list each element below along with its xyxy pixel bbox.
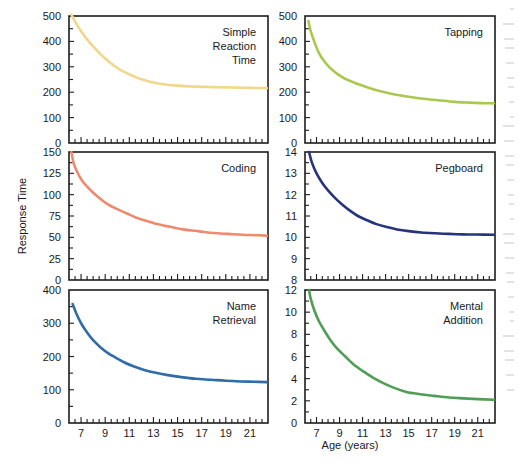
panel-title: Pegboard xyxy=(435,162,483,174)
panel-title: Retrieval xyxy=(213,314,256,326)
y-tick-label: 300 xyxy=(43,61,61,73)
chart-panel-2: 0100200300400500Tapping xyxy=(279,10,495,149)
panel-title: Time xyxy=(232,54,256,66)
panel-title: Name xyxy=(227,300,256,312)
y-tick-label: 500 xyxy=(279,10,297,22)
y-tick-label: 200 xyxy=(279,86,297,98)
chart-panel-6: 02468101279111315171921MentalAddition xyxy=(285,284,495,439)
x-tick-label: 17 xyxy=(426,427,438,439)
y-tick-label: 200 xyxy=(43,351,61,363)
y-tick-label: 500 xyxy=(43,10,61,22)
x-tick-label: 19 xyxy=(220,427,232,439)
y-tick-label: 10 xyxy=(285,306,297,318)
panel-title: Tapping xyxy=(444,26,483,38)
y-tick-label: 14 xyxy=(285,146,297,158)
x-axis-title: Age (years) xyxy=(322,439,379,451)
y-tick-label: 300 xyxy=(43,317,61,329)
x-tick-label: 11 xyxy=(124,427,135,439)
chart-panel-5: 010020030040079111315171921NameRetrieval xyxy=(43,284,268,439)
y-tick-label: 12 xyxy=(285,189,297,201)
panel-title: Simple xyxy=(222,26,256,38)
chart-panel-4: 891011121314Pegboard xyxy=(285,146,495,286)
y-tick-label: 0 xyxy=(291,417,297,429)
y-tick-label: 25 xyxy=(49,253,61,265)
multi-panel-line-chart: 0100200300400500SimpleReactionTime010020… xyxy=(0,0,518,463)
y-tick-label: 100 xyxy=(43,189,61,201)
x-tick-label: 13 xyxy=(379,427,391,439)
x-tick-label: 11 xyxy=(357,427,368,439)
y-tick-label: 125 xyxy=(43,167,61,179)
y-tick-label: 150 xyxy=(43,146,61,158)
y-tick-label: 11 xyxy=(286,210,297,222)
x-tick-label: 19 xyxy=(449,427,461,439)
panel-title: Mental xyxy=(450,300,483,312)
x-tick-label: 15 xyxy=(403,427,415,439)
y-tick-label: 100 xyxy=(43,112,61,124)
x-tick-label: 21 xyxy=(244,427,256,439)
panel-title: Addition xyxy=(443,314,483,326)
figure-panel-grid: 0100200300400500SimpleReactionTime010020… xyxy=(0,0,518,463)
x-tick-label: 21 xyxy=(472,427,484,439)
chart-panel-3: 0255075100125150Coding xyxy=(43,146,268,286)
y-tick-label: 12 xyxy=(285,284,297,296)
y-tick-label: 50 xyxy=(49,231,61,243)
x-tick-label: 13 xyxy=(147,427,159,439)
y-tick-label: 8 xyxy=(291,328,297,340)
y-tick-label: 400 xyxy=(43,284,61,296)
y-tick-label: 100 xyxy=(279,112,297,124)
x-tick-label: 17 xyxy=(196,427,208,439)
y-tick-label: 10 xyxy=(285,231,297,243)
x-tick-label: 15 xyxy=(171,427,183,439)
y-tick-label: 13 xyxy=(285,167,297,179)
y-tick-label: 400 xyxy=(279,35,297,47)
y-tick-label: 2 xyxy=(291,395,297,407)
y-tick-label: 200 xyxy=(43,86,61,98)
page-edge-scan-artifact xyxy=(496,0,518,463)
x-tick-label: 9 xyxy=(336,427,342,439)
y-tick-label: 400 xyxy=(43,35,61,47)
x-tick-label: 7 xyxy=(313,427,319,439)
chart-panel-1: 0100200300400500SimpleReactionTime xyxy=(43,10,268,149)
y-tick-label: 0 xyxy=(55,417,61,429)
y-tick-label: 75 xyxy=(49,210,61,222)
x-tick-label: 7 xyxy=(78,427,84,439)
panel-title: Reaction xyxy=(213,40,256,52)
y-tick-label: 9 xyxy=(291,253,297,265)
y-tick-label: 300 xyxy=(279,61,297,73)
y-axis-title: Response Time xyxy=(16,178,28,254)
y-tick-label: 100 xyxy=(43,384,61,396)
y-tick-label: 4 xyxy=(291,373,297,385)
x-tick-label: 9 xyxy=(102,427,108,439)
panel-title: Coding xyxy=(221,162,256,174)
y-tick-label: 6 xyxy=(291,351,297,363)
